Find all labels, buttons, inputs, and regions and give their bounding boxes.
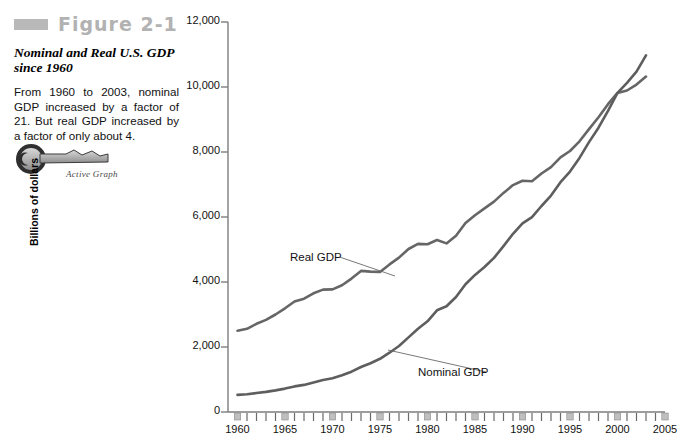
y-tick-label: 8,000 [174,144,220,156]
y-tick-label: 6,000 [174,209,220,221]
y-tick-label: 12,000 [174,14,220,26]
y-tick-label: 4,000 [174,274,220,286]
y-tick-label: 2,000 [174,339,220,351]
series-label-real-gdp: Real GDP [290,251,342,263]
y-tick-label: 10,000 [174,79,220,91]
series-label-nominal-gdp: Nominal GDP [418,366,488,378]
x-tick-label: 2005 [635,423,683,435]
y-tick-label: 0 [174,404,220,416]
y-axis-title: Billions of dollars [28,122,40,282]
